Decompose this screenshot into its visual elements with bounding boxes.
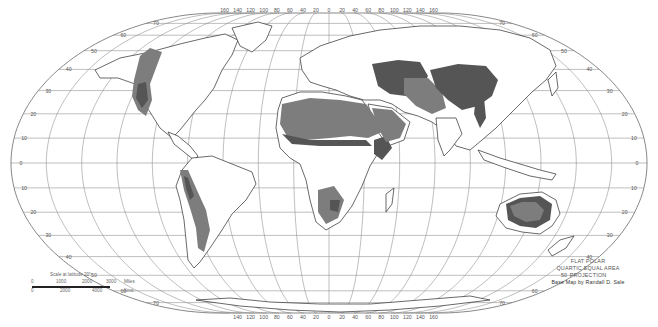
- graticule-label: 20: [30, 209, 36, 215]
- graticule-label: 140: [416, 314, 425, 320]
- graticule-label: 20: [313, 7, 319, 13]
- graticule-label: 100: [259, 314, 268, 320]
- base-map-credit: Base Map by Randall D. Sale: [528, 279, 648, 286]
- scale-km-tick: 4000: [92, 288, 102, 293]
- scale-km-tick: 2000: [60, 288, 70, 293]
- graticule-label: 160: [429, 7, 438, 13]
- graticule-label: 120: [246, 7, 255, 13]
- graticule-label: 10: [21, 135, 27, 141]
- graticule-label: 80: [378, 7, 384, 13]
- graticule-label: 100: [259, 7, 268, 13]
- graticule-label: 0: [636, 160, 639, 166]
- graticule-label: 40: [66, 254, 72, 260]
- projection-title-line: FLAT POLAR: [528, 258, 648, 265]
- graticule-label: 50: [91, 48, 97, 54]
- graticule-label: 80: [274, 314, 280, 320]
- scale-mile-tick: 2000: [82, 279, 92, 284]
- graticule-label: 20: [313, 314, 319, 320]
- scale-mile-tick: 0: [31, 279, 34, 284]
- southeast-asia-islands: [478, 150, 556, 180]
- graticule-label: 120: [403, 314, 412, 320]
- graticule-label: 50: [561, 48, 567, 54]
- graticule-label: 20: [622, 209, 628, 215]
- graticule-label: 70: [499, 300, 505, 306]
- graticule-label: 60: [532, 32, 538, 38]
- graticule-label: 30: [607, 88, 613, 94]
- north-america: [95, 34, 238, 138]
- graticule-label: 140: [416, 7, 425, 13]
- graticule-label: 70: [153, 20, 159, 26]
- graticule-label: 70: [153, 300, 159, 306]
- graticule-label: 0: [328, 7, 331, 13]
- scale-mile-tick: 3000: [106, 279, 116, 284]
- graticule-label: 120: [246, 314, 255, 320]
- madagascar: [386, 188, 394, 212]
- graticule-label: 40: [300, 314, 306, 320]
- graticule-label: 60: [365, 314, 371, 320]
- projection-caption: FLAT POLAR QUARTIC EQUAL AREA PROJECTION…: [528, 258, 648, 286]
- graticule-label: 40: [352, 314, 358, 320]
- graticule-label: 0: [328, 314, 331, 320]
- graticule-label: 60: [287, 314, 293, 320]
- graticule-label: 40: [66, 66, 72, 72]
- graticule-label: 0: [20, 160, 23, 166]
- graticule-label: 10: [631, 185, 637, 191]
- graticule-label: 10: [631, 135, 637, 141]
- projection-title-line: PROJECTION: [528, 272, 648, 279]
- graticule-label: 40: [586, 66, 592, 72]
- dryland-sahara: [280, 98, 382, 140]
- graticule-label: 20: [339, 314, 345, 320]
- projection-title-line: QUARTIC EQUAL AREA: [528, 265, 648, 272]
- graticule-label: 60: [532, 288, 538, 294]
- scale-bar: Scale at latitude 20° 0 1000 2000 3000 M…: [30, 272, 140, 298]
- central-america: [168, 132, 198, 160]
- new-zealand: [548, 236, 574, 256]
- scale-km-unit: Kms.: [124, 288, 134, 293]
- graticule-label: 30: [607, 232, 613, 238]
- graticule-label: 80: [274, 7, 280, 13]
- graticule-label: 60: [287, 7, 293, 13]
- graticule-label: 160: [429, 314, 438, 320]
- graticule-label: 100: [390, 314, 399, 320]
- scale-title: Scale at latitude 20°: [50, 272, 91, 277]
- indian-subcontinent: [436, 118, 462, 156]
- graticule-label: 20: [30, 111, 36, 117]
- graticule-label: 20: [622, 111, 628, 117]
- graticule-label: 20: [339, 7, 345, 13]
- greenland: [232, 22, 272, 52]
- graticule-label: 60: [120, 32, 126, 38]
- graticule-label: 120: [403, 7, 412, 13]
- graticule-label: 140: [233, 7, 242, 13]
- graticule-label: 80: [378, 314, 384, 320]
- graticule-label: 40: [300, 7, 306, 13]
- scale-mile-tick: 1000: [56, 279, 66, 284]
- graticule-label: 40: [352, 7, 358, 13]
- graticule-label: 30: [45, 88, 51, 94]
- scale-miles-unit: Miles: [124, 279, 135, 284]
- continents: [95, 22, 574, 312]
- graticule-label: 30: [45, 232, 51, 238]
- graticule-label: 10: [21, 185, 27, 191]
- scale-km-tick: 0: [31, 288, 34, 293]
- graticule-label: 160: [220, 7, 229, 13]
- graticule-label: 70: [499, 20, 505, 26]
- graticule-label: 60: [365, 7, 371, 13]
- graticule-label: 100: [390, 7, 399, 13]
- graticule-label: 140: [233, 314, 242, 320]
